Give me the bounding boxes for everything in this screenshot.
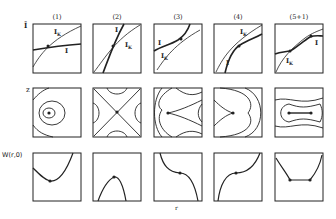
contour-4-cusp-top — [214, 100, 233, 113]
cusp-dot-3 — [166, 111, 169, 114]
panel-1-4-frame — [214, 24, 262, 73]
potential-4-cubic — [218, 153, 260, 201]
tangent-dot-3 — [180, 38, 183, 41]
intersection-dot-1 — [47, 45, 50, 48]
contact-dot-5b — [310, 35, 313, 38]
contour-3-right — [198, 104, 202, 122]
contour-5-bottom — [275, 125, 323, 128]
contour-4-cusp-bot — [214, 113, 233, 126]
intersection-dot-2 — [112, 45, 115, 48]
tangent-dot-4 — [238, 45, 241, 48]
panel-2-1-frame — [33, 88, 81, 137]
panel-2-3-frame — [154, 88, 202, 137]
inflection-dot-4 — [234, 171, 237, 174]
svg-text:IK: IK — [54, 28, 62, 37]
curve-I-1 — [33, 44, 81, 50]
diagram-canvas: IK I I IK I IK IK I I IK — [0, 0, 336, 219]
contour-2-left — [93, 103, 99, 123]
contour-1-corner-tl — [33, 88, 49, 100]
contour-3-cusp-top — [168, 100, 202, 113]
panel-3-5-frame — [275, 153, 323, 201]
panel-3-3-frame — [154, 153, 202, 201]
curve-I-2 — [103, 24, 124, 73]
saddle-dot-2 — [115, 110, 118, 113]
potential-3-cubic — [160, 153, 198, 201]
contact-dot-5a — [289, 50, 292, 53]
contour-3-bottom — [176, 131, 202, 137]
svg-text:I: I — [65, 47, 68, 55]
svg-text:IK: IK — [286, 57, 294, 66]
contour-5-top — [275, 98, 323, 101]
curve-IK-3 — [157, 30, 200, 70]
panel-1-5-frame — [275, 24, 323, 73]
svg-text:I: I — [315, 39, 318, 47]
contour-1-corner-bl — [33, 125, 53, 137]
panel-1-3-frame — [154, 24, 202, 73]
potential-1-minimum — [33, 153, 73, 181]
svg-text:I: I — [115, 26, 118, 34]
contour-3-top — [176, 88, 202, 95]
panel-3-4-frame — [214, 153, 262, 201]
contour-3-cusp-bot — [168, 113, 202, 126]
potential-5-flat — [276, 155, 322, 180]
svg-text:I: I — [158, 39, 161, 47]
svg-text:IK: IK — [161, 52, 169, 61]
contour-4-mid — [220, 88, 251, 137]
segment-dot-5b — [309, 111, 312, 114]
contour-2-right — [135, 103, 141, 123]
min-dot-1 — [48, 179, 51, 182]
cusp-dot-4 — [231, 111, 234, 114]
center-dot-1 — [47, 111, 50, 114]
panel-3-1-frame — [33, 153, 81, 201]
inflection-dot-3 — [178, 171, 181, 174]
curve-I-4 — [225, 34, 262, 73]
max-dot-2 — [112, 175, 115, 178]
svg-text:IK: IK — [240, 28, 248, 37]
segment-dot-5a — [287, 111, 290, 114]
svg-text:I: I — [226, 59, 229, 67]
contour-4-outer — [245, 88, 261, 137]
flat-dot-5a — [288, 178, 291, 181]
contour-2-bottom — [107, 131, 127, 137]
curve-IK-4 — [216, 25, 262, 72]
contour-2-top — [107, 88, 127, 94]
svg-text:IK: IK — [125, 41, 133, 50]
flat-dot-5b — [308, 178, 311, 181]
potential-2-maximum — [98, 177, 126, 201]
